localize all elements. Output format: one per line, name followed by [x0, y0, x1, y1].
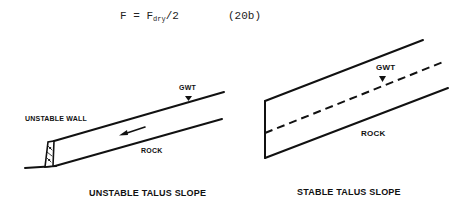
rock-surface-line — [55, 119, 222, 166]
gwt-dashed-line — [265, 62, 443, 133]
stable-talus-slope-figure — [265, 40, 448, 158]
unstable-wall-label: UNSTABLE WALL — [25, 115, 87, 122]
gwt-triangle-icon — [379, 76, 386, 82]
ground-surface-line — [265, 40, 423, 101]
stable-talus-slope-caption: STABLE TALUS SLOPE — [297, 187, 401, 197]
unstable-talus-slope-figure — [25, 92, 224, 168]
left-gwt-label: GWT — [179, 84, 196, 91]
right-rock-label: ROCK — [361, 129, 385, 138]
movement-arrow-icon — [119, 130, 128, 136]
gwt-triangle-icon — [185, 96, 192, 101]
right-gwt-label: GWT — [376, 63, 395, 72]
unstable-talus-slope-caption: UNSTABLE TALUS SLOPE — [89, 188, 206, 198]
left-rock-label: ROCK — [141, 147, 162, 154]
slope-diagrams — [0, 0, 470, 208]
